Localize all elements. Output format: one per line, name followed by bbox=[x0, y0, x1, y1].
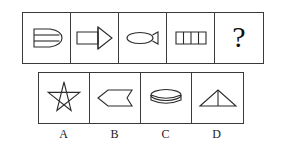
option-labels: A B C D bbox=[38, 126, 244, 142]
cylinder-disc-icon bbox=[147, 86, 185, 110]
option-label-b: B bbox=[89, 126, 140, 142]
option-cell-b[interactable] bbox=[90, 73, 141, 123]
figure-reasoning-puzzle: ? bbox=[0, 0, 282, 150]
option-label-d: D bbox=[191, 126, 242, 142]
question-sequence: ? bbox=[22, 12, 264, 64]
rectangle-with-funnel-cone-icon bbox=[74, 24, 116, 52]
option-label-c: C bbox=[140, 126, 191, 142]
question-cell-1 bbox=[23, 13, 71, 63]
fish-ellipse-with-tail-icon bbox=[124, 27, 162, 49]
question-cell-5-missing: ? bbox=[215, 13, 263, 63]
option-cell-d[interactable] bbox=[192, 73, 243, 123]
option-cell-a[interactable] bbox=[39, 73, 90, 123]
bullet-dome-with-two-horizontal-lines-icon bbox=[28, 23, 66, 53]
five-pointed-star-pentagram-icon bbox=[45, 79, 83, 117]
question-cell-3 bbox=[119, 13, 167, 63]
answer-options-area: A B C D bbox=[38, 72, 244, 142]
option-label-a: A bbox=[38, 126, 89, 142]
answer-options bbox=[38, 72, 244, 124]
question-mark-icon: ? bbox=[232, 22, 245, 52]
triangle-with-median-line-icon bbox=[197, 86, 239, 110]
option-cell-c[interactable] bbox=[141, 73, 192, 123]
question-cell-4 bbox=[167, 13, 215, 63]
segmented-rectangle-four-cells-icon bbox=[174, 29, 208, 47]
question-cell-2 bbox=[71, 13, 119, 63]
left-pointing-pennant-arrow-icon bbox=[95, 86, 135, 110]
